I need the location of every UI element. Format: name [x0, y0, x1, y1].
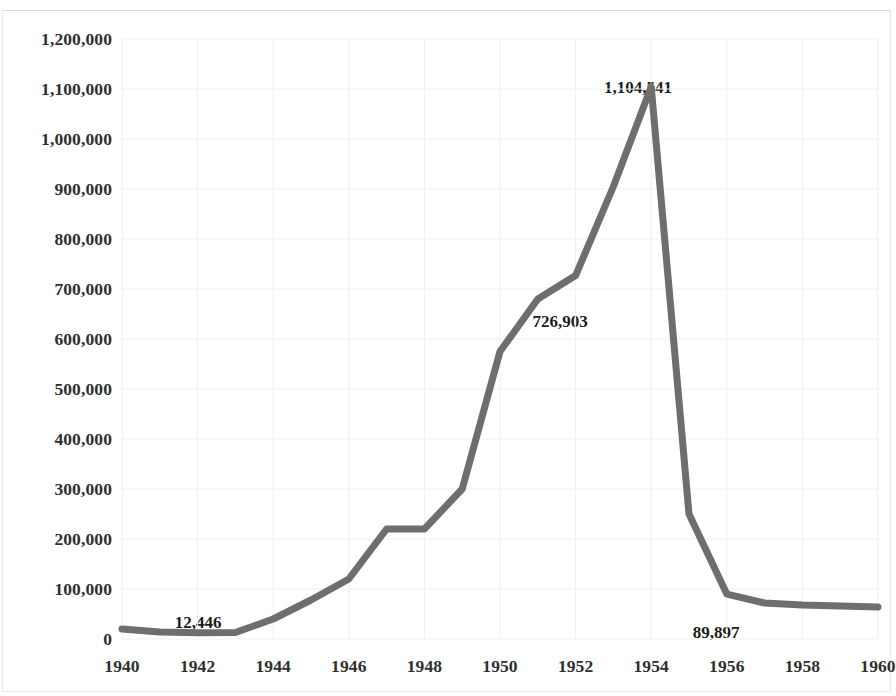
gridlines [122, 39, 878, 639]
